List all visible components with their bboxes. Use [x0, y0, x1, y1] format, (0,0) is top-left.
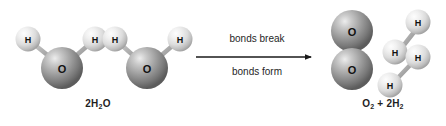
- hydrogen-atom-label: H: [415, 18, 422, 28]
- oxygen-atom-label: O: [348, 26, 357, 38]
- water-molecule-2: O H H: [103, 27, 193, 90]
- water-molecule-1: O H H: [16, 27, 108, 90]
- hydrogen-atom-label: H: [392, 48, 399, 58]
- hydrogen-atom-label: H: [112, 35, 119, 45]
- products-formula: O2 + 2H2: [320, 98, 446, 110]
- oxygen-molecule: O O: [331, 10, 373, 90]
- hydrogen-atom-label: H: [415, 53, 422, 63]
- reactants-formula-suffix: O: [103, 98, 111, 109]
- hydrogen-atom-label: H: [177, 35, 184, 45]
- oxygen-atom-label: O: [143, 63, 152, 75]
- oxygen-atom-label: O: [348, 64, 357, 76]
- reactants-formula: 2H2O: [0, 98, 196, 110]
- hydrogen-atom-label: H: [92, 35, 99, 45]
- products-formula-subscript-2: 2: [400, 103, 404, 110]
- oxygen-atom-label: O: [58, 63, 67, 75]
- hydrogen-atom-label: H: [387, 81, 394, 91]
- arrow-label-bonds-break: bonds break: [196, 33, 318, 44]
- products-formula-middle: + 2H: [374, 98, 399, 109]
- reactants-formula-prefix: 2H: [85, 98, 98, 109]
- arrow-label-bonds-form: bonds form: [196, 66, 318, 77]
- hydrogen-atom-label: H: [25, 35, 32, 45]
